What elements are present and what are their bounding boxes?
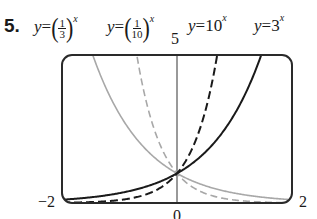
plot-area — [0, 0, 317, 219]
x-min-tick-label: −2 — [38, 193, 55, 211]
x-max-tick-label: 2 — [299, 193, 307, 211]
origin-tick-label: 0 — [173, 207, 181, 219]
